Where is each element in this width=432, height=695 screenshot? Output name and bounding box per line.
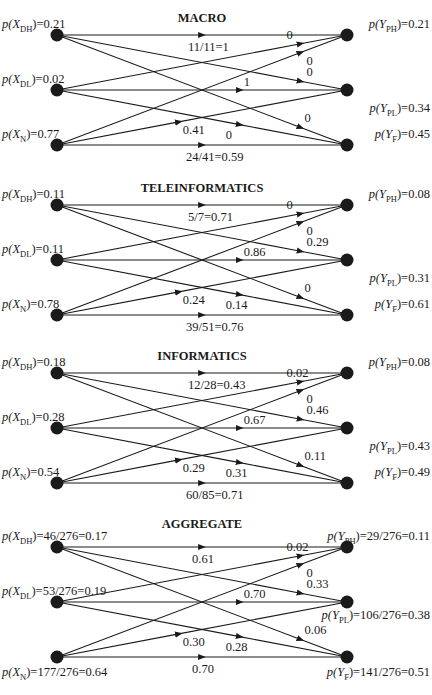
probability-value: 0.18 — [44, 355, 66, 369]
close-paren: )= — [31, 410, 42, 424]
close-paren: )= — [397, 297, 408, 311]
sink-node-yph — [341, 29, 354, 42]
sink-node-ypl — [341, 84, 354, 97]
edge-weight-label: 0 — [226, 128, 232, 142]
edge-line-tail — [240, 637, 347, 657]
variable-subscript: PL — [387, 446, 397, 456]
edge-line-tail — [301, 35, 347, 53]
close-paren: )= — [397, 187, 408, 201]
edge-line-tail — [301, 465, 347, 483]
edge-XN-to-YF: 39/51=0.76 — [57, 315, 347, 334]
sink-label-ypl: p(YPL)=0.31 — [369, 271, 430, 288]
prob-symbol: p( — [369, 439, 381, 453]
close-paren: )= — [31, 242, 42, 256]
edge-weight-label: 0 — [307, 566, 313, 580]
probability-value: 0.77 — [37, 127, 59, 141]
edge-XN-to-YF: 24/41=0.59 — [57, 145, 347, 164]
edge-line-head — [57, 35, 301, 81]
variable-subscript: DL — [20, 79, 31, 89]
close-paren: )= — [31, 584, 42, 598]
close-paren: )= — [26, 465, 37, 479]
close-paren: )= — [32, 187, 43, 201]
edge-weight-label: 60/85=0.71 — [186, 488, 243, 502]
close-paren: )= — [32, 17, 43, 31]
prob-symbol: p( — [326, 529, 338, 543]
edge-weight-label: 0.70 — [192, 662, 214, 676]
edge-line-head — [57, 428, 240, 463]
edge-line-tail — [301, 205, 347, 223]
variable-subscript: PL — [387, 278, 397, 288]
edge-weight-label: 0 — [305, 111, 311, 125]
variable-subscript: DH — [20, 194, 32, 204]
variable-subscript: DH — [20, 24, 32, 34]
source-node-xn — [51, 651, 64, 664]
prob-symbol: p( — [326, 665, 338, 679]
probability-value: 0.78 — [37, 297, 59, 311]
edge-weight-label: 0.70 — [244, 587, 266, 601]
close-paren: )= — [26, 297, 37, 311]
probability-value: 0.08 — [408, 355, 430, 369]
probability-value: 0.49 — [408, 465, 430, 479]
edge-line-tail — [240, 463, 347, 483]
sink-label-yph: p(YPH)=0.08 — [368, 355, 430, 372]
edge-XDL-to-YPL: 0.86 — [57, 245, 347, 260]
prob-symbol: p( — [1, 72, 13, 86]
edge-weight-label: 0 — [307, 392, 313, 406]
edge-line-head — [57, 460, 179, 483]
variable-subscript: PH — [386, 194, 397, 204]
prob-symbol: p( — [374, 465, 386, 479]
source-label-xn: p(XN)=0.54 — [1, 465, 60, 482]
edge-weight-label: 0.14 — [226, 298, 249, 312]
source-label-xn: p(XN)=177/276=0.64 — [1, 665, 108, 682]
edge-weight-label: 0 — [307, 224, 313, 238]
edge-line-tail — [301, 35, 347, 44]
edge-weight-label: 0 — [307, 54, 313, 68]
edge-weight-label: 0.41 — [183, 123, 205, 137]
edge-weight-label: 0.30 — [183, 635, 205, 649]
edge-line-head — [57, 634, 179, 657]
prob-symbol: p( — [368, 187, 380, 201]
close-paren: )= — [32, 355, 43, 369]
edge-line-tail — [301, 205, 347, 214]
edge-line-tail — [301, 251, 347, 260]
edge-weight-label: 0.02 — [287, 540, 309, 554]
probability-value: 0.21 — [44, 17, 66, 31]
prob-symbol: p( — [321, 608, 333, 622]
edge-line-tail — [301, 127, 347, 145]
prob-symbol: p( — [1, 665, 13, 679]
variable-subscript: DL — [20, 591, 31, 601]
sink-label-yph: p(YPH)=0.08 — [368, 187, 430, 204]
prob-symbol: p( — [1, 297, 13, 311]
edge-line-head — [57, 122, 179, 145]
prob-symbol: p( — [369, 271, 381, 285]
edge-weight-label: 0.28 — [226, 640, 248, 654]
sink-label-ypl: p(YPL)=0.34 — [369, 101, 431, 118]
prob-symbol: p( — [1, 355, 13, 369]
edge-line-head — [57, 602, 240, 637]
panel-informatics: INFORMATICS12/28=0.430.460.110.020.670.3… — [1, 349, 430, 502]
probability-value: 177/276=0.64 — [37, 665, 108, 679]
edge-line-tail — [301, 593, 347, 602]
close-paren: )= — [397, 439, 408, 453]
sink-label-yf: p(YF)=0.61 — [374, 297, 430, 314]
prob-symbol: p( — [368, 355, 380, 369]
panel-teleinformatics: TELEINFORMATICS5/7=0.710.29000.860.1400.… — [1, 181, 430, 334]
prob-symbol: p( — [368, 17, 380, 31]
edge-line-tail — [301, 419, 347, 428]
edge-line-head — [57, 292, 179, 315]
edge-line-tail — [240, 295, 347, 315]
close-paren: )= — [397, 127, 408, 141]
sink-node-yph — [341, 199, 354, 212]
variable-subscript: DH — [20, 536, 32, 546]
panel-macro: MACRO11/11=10001000.4124/41=0.59p(XDH)=0… — [1, 11, 431, 164]
sink-label-ypl: p(YPL)=106/276=0.38 — [321, 608, 430, 625]
variable-subscript: PH — [345, 536, 356, 546]
close-paren: )= — [349, 665, 360, 679]
edge-weight-label: 0.31 — [226, 466, 248, 480]
probability-value: 0.45 — [408, 127, 430, 141]
close-paren: )= — [397, 101, 408, 115]
close-paren: )= — [26, 665, 37, 679]
edge-line-tail — [179, 90, 347, 122]
close-paren: )= — [26, 127, 37, 141]
prob-symbol: p( — [1, 410, 13, 424]
